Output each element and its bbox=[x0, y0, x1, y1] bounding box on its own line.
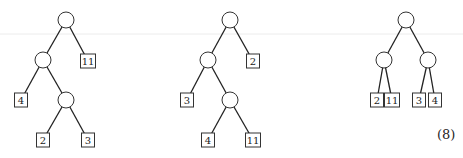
tree-3: 21134 bbox=[371, 12, 442, 107]
internal-node bbox=[222, 12, 238, 28]
internal-node bbox=[420, 52, 436, 68]
leaf-label: 4 bbox=[18, 95, 24, 106]
leaf-label: 2 bbox=[40, 135, 46, 146]
leaf-label: 3 bbox=[184, 95, 190, 106]
internal-node bbox=[58, 92, 74, 108]
leaf-label: 4 bbox=[205, 135, 211, 146]
leaf-label: 11 bbox=[386, 95, 399, 106]
internal-node bbox=[222, 92, 238, 108]
internal-node bbox=[376, 52, 392, 68]
leaf-label: 3 bbox=[416, 95, 422, 106]
internal-node bbox=[58, 12, 74, 28]
internal-node bbox=[398, 12, 414, 28]
internal-node bbox=[200, 52, 216, 68]
leaf-label: 3 bbox=[85, 135, 91, 146]
leaf-label: 11 bbox=[82, 56, 95, 67]
tree-2: 23411 bbox=[181, 12, 261, 147]
equation-label: (8) bbox=[437, 127, 455, 142]
leaf-label: 4 bbox=[432, 95, 438, 106]
leaf-label: 11 bbox=[247, 135, 260, 146]
leaf-label: 2 bbox=[374, 95, 380, 106]
leaf-label: 2 bbox=[250, 56, 256, 67]
tree-1: 11423 bbox=[15, 12, 96, 147]
binary-trees-diagram: 114232341121134 (8) bbox=[0, 0, 463, 158]
internal-node bbox=[35, 52, 51, 68]
